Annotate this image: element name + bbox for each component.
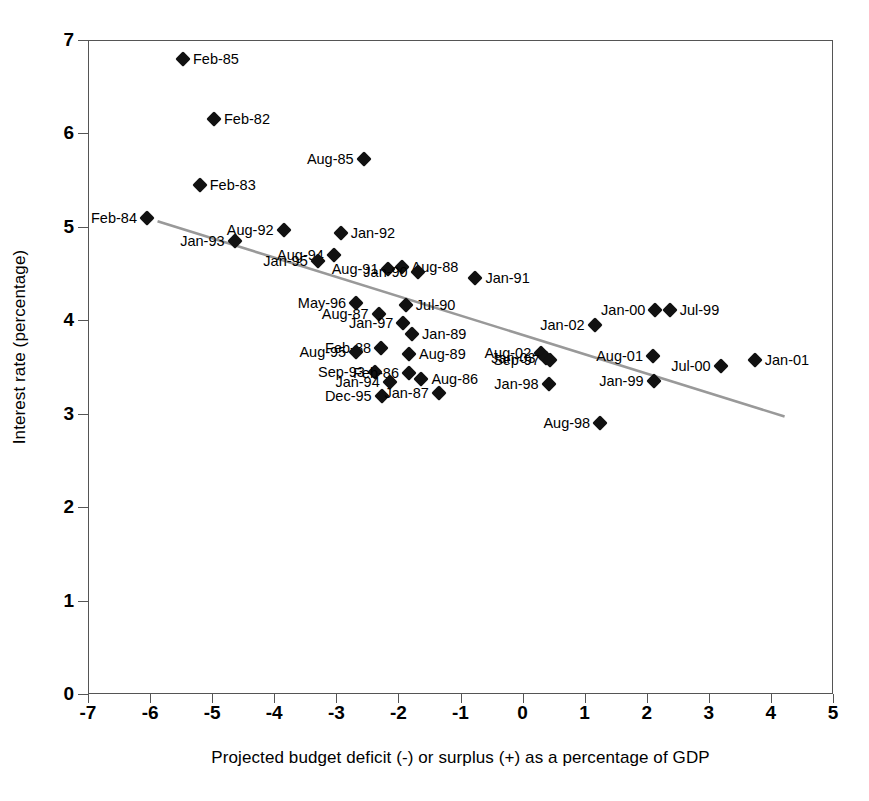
x-tick-mark	[771, 694, 772, 703]
x-tick-label: -3	[316, 702, 356, 724]
data-point-label: Feb-84	[91, 210, 137, 226]
x-tick-label: -7	[68, 702, 108, 724]
y-tick-mark	[78, 414, 88, 415]
data-point-label: Feb-83	[210, 177, 256, 193]
x-tick-label: 5	[813, 702, 853, 724]
x-tick-mark	[212, 694, 213, 703]
y-tick-label: 5	[44, 216, 74, 238]
x-tick-label: 3	[689, 702, 729, 724]
x-tick-mark	[461, 694, 462, 703]
x-tick-mark	[709, 694, 710, 703]
data-point-label: Jan-93	[180, 233, 224, 249]
x-axis-title: Projected budget deficit (-) or surplus …	[88, 748, 833, 768]
y-tick-label: 4	[44, 309, 74, 331]
x-tick-label: -2	[378, 702, 418, 724]
x-tick-label: -5	[192, 702, 232, 724]
data-point-label: Jul-99	[680, 302, 720, 318]
y-axis-title: Interest rate (percentage)	[0, 0, 40, 694]
data-point-label: Jan-00	[601, 302, 645, 318]
data-point-label: Jan-02	[540, 317, 584, 333]
data-point-label: Jul-00	[671, 358, 711, 374]
data-point-label: Jul-90	[416, 297, 456, 313]
trend-line-segment	[158, 221, 785, 416]
data-point-label: Jan-92	[351, 225, 395, 241]
data-point-label: Sep-97	[493, 352, 540, 368]
y-tick-mark	[78, 507, 88, 508]
y-tick-mark	[78, 601, 88, 602]
x-tick-label: 2	[627, 702, 667, 724]
data-point-label: Aug-85	[307, 151, 354, 167]
x-tick-mark	[274, 694, 275, 703]
x-tick-label: 4	[751, 702, 791, 724]
data-point-label: Feb-85	[193, 51, 239, 67]
x-tick-mark	[336, 694, 337, 703]
data-point-label: Jan-91	[485, 270, 529, 286]
data-point-label: Aug-95	[299, 344, 346, 360]
data-point-label: Jan-87	[384, 385, 428, 401]
y-tick-mark	[78, 133, 88, 134]
x-tick-label: 0	[503, 702, 543, 724]
data-point-label: Jan-01	[765, 352, 809, 368]
x-tick-label: -6	[130, 702, 170, 724]
x-tick-label: -1	[441, 702, 481, 724]
data-point-label: Feb-82	[224, 111, 270, 127]
x-tick-label: 1	[565, 702, 605, 724]
x-tick-mark	[585, 694, 586, 703]
x-tick-mark	[398, 694, 399, 703]
data-point-label: Jan-97	[349, 315, 393, 331]
y-tick-label: 7	[44, 29, 74, 51]
y-tick-label: 6	[44, 122, 74, 144]
x-tick-mark	[647, 694, 648, 703]
data-point-label: Jan-89	[422, 326, 466, 342]
y-tick-label: 1	[44, 590, 74, 612]
y-tick-mark	[78, 320, 88, 321]
x-tick-mark	[150, 694, 151, 703]
data-point-label: Jan-95	[263, 253, 307, 269]
scatter-chart: Interest rate (percentage) 01234567 -7-6…	[0, 0, 869, 801]
data-point-label: Jan-90	[363, 264, 407, 280]
x-tick-mark	[833, 694, 834, 703]
plot-area: Feb-85Feb-82Aug-85Feb-83Feb-84Aug-92Jan-…	[88, 40, 833, 694]
data-point-label: Aug-98	[543, 415, 590, 431]
y-tick-mark	[78, 40, 88, 41]
data-point-label: Jan-99	[599, 373, 643, 389]
y-tick-mark	[78, 227, 88, 228]
x-tick-label: -4	[254, 702, 294, 724]
x-tick-mark	[523, 694, 524, 703]
data-point-label: Aug-01	[596, 348, 643, 364]
x-tick-mark	[88, 694, 89, 703]
data-point-label: Dec-95	[325, 388, 372, 404]
y-tick-label: 3	[44, 403, 74, 425]
y-tick-mark	[78, 694, 88, 695]
y-tick-label: 2	[44, 496, 74, 518]
data-point-label: Aug-89	[419, 346, 466, 362]
data-point-label: Jan-98	[494, 376, 538, 392]
